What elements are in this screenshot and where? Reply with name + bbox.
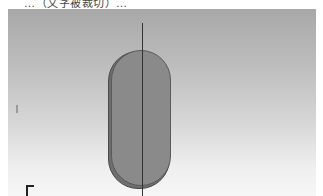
- viewport-edge-marker: [16, 105, 18, 113]
- 3d-viewport[interactable]: [8, 9, 316, 196]
- vertical-axis-line: [142, 23, 143, 196]
- axis-triad-icon: [26, 185, 34, 196]
- obround-solid[interactable]: [111, 50, 171, 186]
- clipped-caption-text: …（文字被裁切）…: [0, 0, 323, 8]
- caption-text: …（文字被裁切）…: [24, 0, 128, 8]
